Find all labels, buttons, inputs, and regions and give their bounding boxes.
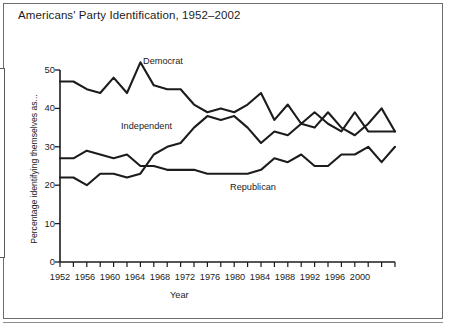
chart-plot-area: Percentage identifying themselves as... …: [0, 0, 453, 334]
axis-lines: [60, 70, 395, 262]
series-line-democrat: [60, 62, 395, 131]
chart-page: Americans' Party Identification, 1952–20…: [0, 0, 453, 334]
chart-canvas: [0, 0, 453, 334]
series-polylines: [60, 62, 395, 185]
series-line-republican: [60, 147, 395, 174]
